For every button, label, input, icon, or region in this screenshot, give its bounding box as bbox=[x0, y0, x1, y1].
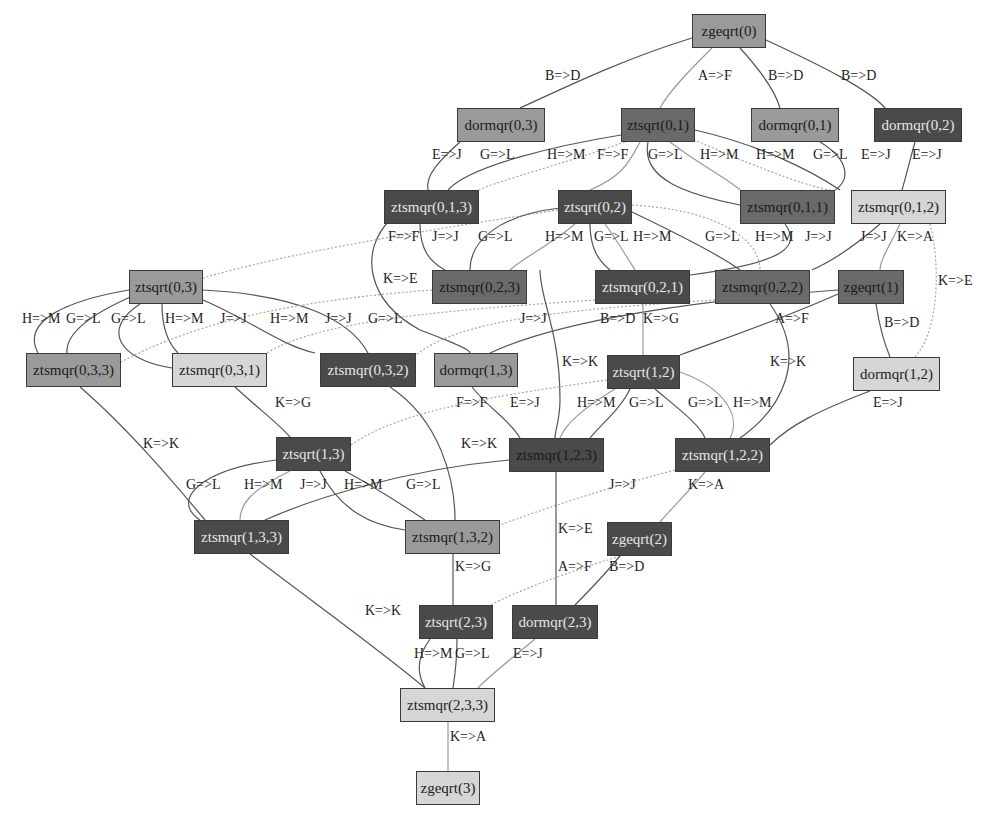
node-ztsmqr-2-3-3[interactable]: ztsmqr(2,3,3) bbox=[400, 688, 495, 722]
edge-label: J=>J bbox=[300, 477, 327, 493]
node-ztsmqr-1-3-3[interactable]: ztsmqr(1,3,3) bbox=[194, 520, 289, 554]
node-ztsmqr-1-2-3[interactable]: ztsmqr(1,2,3) bbox=[509, 438, 604, 472]
edge-label: E=>J bbox=[510, 395, 540, 411]
edge-label: J=>J bbox=[860, 229, 887, 245]
edge-label: E=>J bbox=[912, 147, 942, 163]
edge-label: E=>J bbox=[861, 147, 891, 163]
edge-label: H=>M bbox=[414, 646, 452, 662]
edge-label: H=>M bbox=[545, 229, 583, 245]
node-dormqr-0-3[interactable]: dormqr(0,3) bbox=[457, 108, 545, 142]
edge-label: K=>K bbox=[562, 354, 598, 370]
node-ztsqrt-2-3[interactable]: ztsqrt(2,3) bbox=[419, 605, 493, 639]
edge-label: K=>A bbox=[450, 729, 486, 745]
edge-label: H=>M bbox=[244, 477, 282, 493]
node-ztsmqr-0-3-2[interactable]: ztsmqr(0,3,2) bbox=[320, 353, 416, 387]
node-ztsmqr-0-3-1[interactable]: ztsmqr(0,3,1) bbox=[172, 353, 267, 387]
edge-label: H=>M bbox=[22, 311, 60, 327]
node-ztsmqr-1-2-2[interactable]: ztsmqr(1,2,2) bbox=[675, 438, 770, 472]
node-zgeqrt-1[interactable]: zgeqrt(1) bbox=[838, 270, 904, 304]
edge-label: E=>J bbox=[432, 147, 462, 163]
node-zgeqrt-2[interactable]: zgeqrt(2) bbox=[607, 522, 672, 556]
edge-label: A=>F bbox=[775, 311, 809, 327]
node-ztsmqr-0-2-3[interactable]: ztsmqr(0,2,3) bbox=[432, 270, 527, 304]
edge-label: G=>L bbox=[406, 477, 440, 493]
node-zgeqrt-0[interactable]: zgeqrt(0) bbox=[692, 14, 766, 48]
edge-label: B=>D bbox=[545, 68, 580, 84]
edge-label: B=>D bbox=[884, 315, 919, 331]
edge-label: J=>J bbox=[805, 229, 832, 245]
edge-label: K=>G bbox=[455, 559, 491, 575]
edge-label: J=>J bbox=[609, 477, 636, 493]
edge-label: H=>M bbox=[165, 311, 203, 327]
edge-label: H=>M bbox=[577, 395, 615, 411]
edge-label: G=>L bbox=[705, 229, 739, 245]
edge-label: B=>D bbox=[841, 68, 876, 84]
edge-label: K=>K bbox=[770, 354, 806, 370]
edge-label: E=>J bbox=[873, 395, 903, 411]
node-dormqr-1-2[interactable]: dormqr(1,2) bbox=[853, 357, 940, 391]
edge-label: G=>L bbox=[66, 311, 100, 327]
edge-label: G=>L bbox=[688, 395, 722, 411]
edge-label: G=>L bbox=[594, 229, 628, 245]
node-ztsmqr-0-1-2[interactable]: ztsmqr(0,1,2) bbox=[851, 190, 946, 224]
edge-label: G=>L bbox=[480, 147, 514, 163]
edge-label: G=>L bbox=[813, 147, 847, 163]
edge-label: H=>M bbox=[270, 311, 308, 327]
edge-label: F=>F bbox=[597, 147, 628, 163]
edge-label: G=>L bbox=[111, 311, 145, 327]
edge-label: H=>M bbox=[344, 477, 382, 493]
edge-label: K=>K bbox=[365, 603, 401, 619]
node-dormqr-0-2[interactable]: dormqr(0,2) bbox=[874, 108, 962, 142]
edge-label: K=>A bbox=[897, 229, 933, 245]
node-ztsqrt-1-3[interactable]: ztsqrt(1,3) bbox=[276, 437, 351, 471]
edge-label: B=>D bbox=[600, 311, 635, 327]
node-ztsmqr-0-2-2[interactable]: ztsmqr(0,2,2) bbox=[715, 270, 810, 304]
edge-label: G=>L bbox=[368, 311, 402, 327]
node-ztsqrt-1-2[interactable]: ztsqrt(1,2) bbox=[607, 355, 680, 389]
edge-label: H=>M bbox=[755, 229, 793, 245]
node-ztsmqr-0-1-3[interactable]: ztsmqr(0,1,3) bbox=[384, 190, 479, 224]
edge-label: A=>F bbox=[698, 68, 732, 84]
edge-label: A=>F bbox=[558, 559, 592, 575]
edge-label: G=>L bbox=[455, 646, 489, 662]
node-ztsmqr-0-1-1[interactable]: ztsmqr(0,1,1) bbox=[740, 190, 835, 224]
edge-label: K=>K bbox=[461, 436, 497, 452]
edge-label: K=>G bbox=[275, 395, 311, 411]
edge-label: E=>J bbox=[513, 646, 543, 662]
node-ztsqrt-0-3[interactable]: ztsqrt(0,3) bbox=[129, 270, 203, 304]
node-dormqr-0-1[interactable]: dormqr(0,1) bbox=[751, 108, 839, 142]
edge-label: K=>E bbox=[558, 521, 592, 537]
edge-label: K=>G bbox=[643, 311, 679, 327]
edge-label: J=>J bbox=[325, 311, 352, 327]
edge-label: G=>L bbox=[629, 395, 663, 411]
dag-diagram: zgeqrt(0) dormqr(0,3) ztsqrt(0,1) dormqr… bbox=[0, 0, 1001, 827]
edge-label: H=>M bbox=[733, 395, 771, 411]
edge-label: H=>M bbox=[756, 147, 794, 163]
edge-label: H=>M bbox=[547, 147, 585, 163]
edge-label: K=>E bbox=[383, 271, 417, 287]
edge-label: K=>E bbox=[938, 273, 972, 289]
node-ztsqrt-0-2[interactable]: ztsqrt(0,2) bbox=[558, 190, 632, 224]
edge-label: K=>K bbox=[143, 436, 179, 452]
node-ztsmqr-0-3-3[interactable]: ztsmqr(0,3,3) bbox=[26, 353, 121, 387]
edge-label: G=>L bbox=[478, 229, 512, 245]
edge-label: H=>M bbox=[633, 229, 671, 245]
edge-label: B=>D bbox=[768, 68, 803, 84]
edge-label: B=>D bbox=[609, 559, 644, 575]
edge-label: G=>L bbox=[186, 477, 220, 493]
edge-label: F=>F bbox=[388, 229, 419, 245]
node-dormqr-2-3[interactable]: dormqr(2,3) bbox=[512, 605, 598, 639]
node-ztsmqr-1-3-2[interactable]: ztsmqr(1,3,2) bbox=[405, 520, 500, 554]
node-dormqr-1-3[interactable]: dormqr(1,3) bbox=[434, 353, 518, 387]
edge-label: J=>J bbox=[432, 229, 459, 245]
node-ztsqrt-0-1[interactable]: ztsqrt(0,1) bbox=[621, 108, 695, 142]
node-zgeqrt-3[interactable]: zgeqrt(3) bbox=[416, 771, 480, 805]
edge-label: K=>A bbox=[688, 477, 724, 493]
edge-label: J=>J bbox=[220, 311, 247, 327]
edge-label: H=>M bbox=[700, 147, 738, 163]
node-ztsmqr-0-2-1[interactable]: ztsmqr(0,2,1) bbox=[595, 270, 690, 304]
edge-label: G=>L bbox=[648, 147, 682, 163]
edge-label: F=>F bbox=[456, 395, 487, 411]
edge-label: J=>J bbox=[520, 311, 547, 327]
